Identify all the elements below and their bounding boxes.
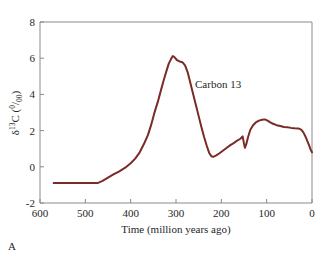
chart-background [0,0,331,257]
x-tick-label: 500 [77,207,94,219]
x-axis-title: Time (million years ago) [121,223,231,236]
y-tick-label: 0 [30,161,36,173]
x-tick-label: 300 [168,207,185,219]
y-tick-label: -2 [26,197,35,209]
x-tick-label: 200 [213,207,230,219]
carbon-13-chart: 6005004003002001000 -202468 Carbon 13 Ti… [0,0,331,257]
y-axis-element-c: C [9,115,21,122]
panel-label: A [8,240,16,252]
y-tick-label: 6 [30,52,36,64]
y-tick-label: 8 [30,16,36,28]
x-tick-label: 100 [258,207,275,219]
x-tick-label: 400 [122,207,139,219]
x-tick-label: 0 [309,207,315,219]
series-annotation-carbon-13: Carbon 13 [195,78,242,90]
figure-panel: 6005004003002001000 -202468 Carbon 13 Ti… [0,0,331,257]
y-tick-label: 4 [30,88,36,100]
y-axis-close-paren: ) [9,90,22,94]
y-tick-label: 2 [30,125,36,137]
